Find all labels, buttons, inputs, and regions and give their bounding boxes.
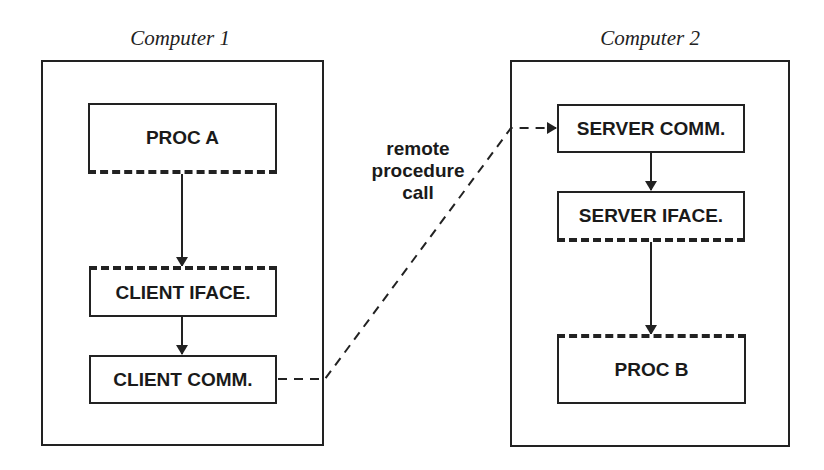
remote-procedure-call-label: remote procedure call bbox=[348, 138, 488, 204]
client-comm-label: CLIENT COMM. bbox=[113, 369, 252, 391]
rpc-label-line-1: remote bbox=[348, 138, 488, 160]
server-comm-box: SERVER COMM. bbox=[557, 104, 745, 153]
proc-b-box: PROC B bbox=[557, 334, 746, 404]
client-comm-box: CLIENT COMM. bbox=[89, 355, 277, 404]
proc-b-label: PROC B bbox=[615, 359, 689, 381]
server-comm-label: SERVER COMM. bbox=[577, 118, 726, 140]
rpc-label-line-3: call bbox=[348, 182, 488, 204]
client-iface-label: CLIENT IFACE. bbox=[115, 282, 250, 304]
proc-a-label: PROC A bbox=[146, 127, 219, 149]
proc-a-box: PROC A bbox=[88, 103, 277, 174]
server-iface-label: SERVER IFACE. bbox=[579, 205, 723, 227]
server-iface-box: SERVER IFACE. bbox=[557, 191, 745, 242]
rpc-label-line-2: procedure bbox=[348, 160, 488, 182]
client-iface-box: CLIENT IFACE. bbox=[89, 266, 277, 317]
